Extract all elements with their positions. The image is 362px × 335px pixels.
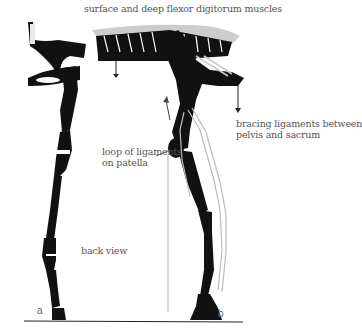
label-patella-line1: loop of ligaments: [102, 146, 182, 157]
panel-label-a: a: [37, 305, 43, 316]
label-bracing-ligaments-line2: pelvis and sacrum: [236, 129, 320, 140]
label-patella-line2: on patella: [102, 157, 148, 168]
panel-label-b: b: [218, 308, 224, 319]
bracing-arrow: [235, 86, 241, 113]
label-flexor-muscles: surface and deep flexor digitorum muscle…: [84, 3, 282, 14]
side-view-limb: [160, 30, 244, 320]
label-back-view: back view: [81, 245, 127, 256]
back-view-limb: [28, 22, 86, 320]
label-bracing-ligaments-line1: bracing ligaments between: [236, 118, 362, 129]
ground-line: [24, 321, 243, 322]
